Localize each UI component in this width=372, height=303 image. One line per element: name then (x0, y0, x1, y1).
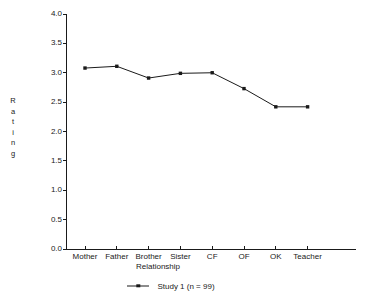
x-axis-tick-label: Mother (73, 252, 98, 261)
x-axis-tick-label: Brother (135, 252, 161, 261)
x-axis-tick-label: CF (207, 252, 218, 261)
chart-figure: R a t i n g 0.00.51.01.52.02.53.03.54.0 … (0, 0, 372, 303)
x-axis-title-text: Relationship (136, 262, 180, 271)
x-axis-title: Relationship (0, 262, 372, 271)
x-axis-tick-label: Father (105, 252, 128, 261)
legend-marker-icon (125, 281, 151, 291)
x-axis-tick-label: OK (270, 252, 282, 261)
legend-entry-label: Study 1 (n = 99) (157, 282, 214, 291)
legend-entry: Study 1 (n = 99) (125, 281, 214, 291)
x-axis-tick-label: OF (238, 252, 249, 261)
x-axis-tick-label: Teacher (293, 252, 321, 261)
x-axis-tick-label: Sister (170, 252, 190, 261)
chart-legend: Study 1 (n = 99) (0, 281, 372, 291)
x-axis-tick-labels: MotherFatherBrotherSisterCFOFOKTeacher (0, 0, 372, 303)
